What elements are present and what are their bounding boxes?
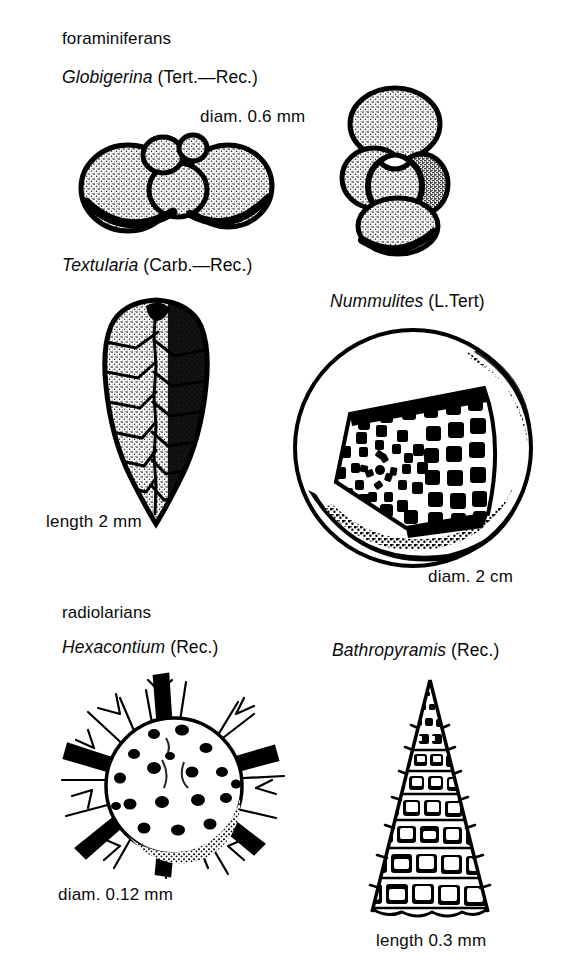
group-heading-radiolarians: radiolarians — [62, 604, 151, 623]
figure-globigerina-spiral-view — [78, 128, 278, 240]
age-range-nummulites: (L.Tert) — [428, 291, 484, 311]
genus-name-hexacontium: Hexacontium — [62, 637, 165, 657]
scale-label-globigerina: diam. 0.6 mm — [200, 108, 305, 127]
genus-name-textularia: Textularia — [62, 255, 138, 275]
genus-name-globigerina: Globigerina — [62, 67, 153, 87]
microfossil-plate: foraminiferans Globigerina (Tert.—Rec.) … — [0, 0, 566, 965]
figure-bathropyramis-cone — [330, 676, 530, 920]
genus-name-nummulites: Nummulites — [330, 291, 423, 311]
age-range-globigerina: (Tert.—Rec.) — [158, 67, 258, 87]
figure-textularia-test — [96, 296, 216, 528]
genus-name-bathropyramis: Bathropyramis — [332, 640, 446, 660]
taxon-label-textularia: Textularia (Carb.—Rec.) — [62, 256, 252, 275]
taxon-label-hexacontium: Hexacontium (Rec.) — [62, 638, 218, 657]
taxon-label-bathropyramis: Bathropyramis (Rec.) — [332, 641, 499, 660]
scale-label-bathropyramis: length 0.3 mm — [376, 932, 486, 951]
scale-label-hexacontium: diam. 0.12 mm — [58, 886, 173, 905]
age-range-bathropyramis: (Rec.) — [451, 640, 499, 660]
figure-hexacontium-sphere — [58, 668, 290, 880]
taxon-label-globigerina: Globigerina (Tert.—Rec.) — [62, 68, 258, 87]
age-range-hexacontium: (Rec.) — [170, 637, 218, 657]
taxon-label-nummulites: Nummulites (L.Tert) — [330, 292, 485, 311]
age-range-textularia: (Carb.—Rec.) — [143, 255, 252, 275]
group-heading-foraminiferans: foraminiferans — [62, 30, 171, 49]
figure-globigerina-side-view — [322, 86, 462, 254]
figure-nummulites-disc — [288, 322, 538, 574]
